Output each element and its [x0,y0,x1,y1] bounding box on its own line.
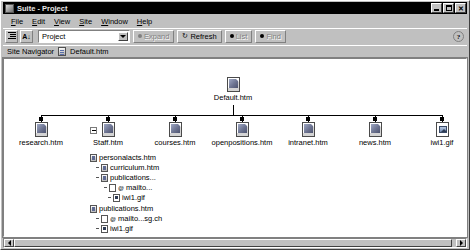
tree-node-label: iwi1.gif [409,138,467,147]
tree-node-courses[interactable]: courses.htm [142,122,208,147]
scroll-right-button[interactable] [456,239,466,247]
current-document-label[interactable]: Default.htm [70,47,108,56]
tree-node-staff[interactable]: Staff.htm [75,122,141,147]
expand-button[interactable]: Expand [133,30,174,43]
horizontal-scrollbar[interactable] [3,238,467,248]
site-map-canvas[interactable]: Default.htm research.htm S [3,58,467,237]
question-mark-icon: ? [457,33,461,41]
tree-node-iwi1gif[interactable]: iwi1.gif [409,122,467,147]
menu-edit[interactable]: Edit [28,16,50,27]
scrollbar-track[interactable] [14,239,456,247]
html-page-icon [227,77,240,92]
minus-icon [92,130,96,131]
html-page-icon [369,122,382,137]
node-connector-plug [306,117,310,121]
menu-view[interactable]: View [50,16,75,27]
tree-node-openpositions[interactable]: openpositions.htm [209,122,275,147]
html-page-icon [101,164,108,172]
sort-button[interactable]: A↓ [20,30,33,43]
html-page-icon [101,174,108,182]
minimize-icon [434,9,439,11]
list-icon [230,34,234,38]
node-connector-plug [39,117,43,121]
menu-site[interactable]: Site [75,16,97,27]
minimize-button[interactable] [431,3,442,13]
arrow-right-icon [460,240,463,246]
outline-row[interactable]: @ mailto...sg.ch [96,214,162,223]
tree-node-label: intranet.htm [275,138,341,147]
help-button[interactable]: ? [453,31,464,42]
tree-node-label: research.htm [8,138,74,147]
node-connector-plug [440,117,444,121]
window-title: Suite - Project [17,4,67,13]
html-page-icon [90,205,97,213]
tree-node-research[interactable]: research.htm [8,122,74,147]
html-page-icon [236,122,249,137]
scroll-left-button[interactable] [4,239,14,247]
html-page-icon [90,154,97,162]
tree-node-label: Staff.htm [75,138,141,147]
outline-row[interactable]: iwi1.gif [96,224,133,233]
title-bar[interactable]: Suite - Project ✕ [3,2,467,14]
outline-row[interactable]: iwi1.gif [108,193,145,202]
tree-node-intranet[interactable]: intranet.htm [275,122,341,147]
outline-row-label: personalacts.htm [99,153,156,162]
chevron-down-icon[interactable] [118,32,128,41]
image-file-icon [436,122,449,137]
tree-branch-icon [96,177,99,178]
tree-node-label: news.htm [342,138,408,147]
list-button[interactable]: List [225,30,253,43]
menu-help[interactable]: Help [133,16,157,27]
arrow-left-icon [8,240,11,246]
mail-link-icon [109,184,116,192]
project-combo[interactable]: Project [38,30,130,43]
refresh-label: Refresh [190,32,216,41]
project-combo-value: Project [39,32,65,41]
tree-branch-icon [96,228,99,229]
app-icon [5,4,14,13]
outline-view-icon [8,32,16,40]
toolbar: A↓ Project Expand ↻ Refresh List Find ? [3,28,467,43]
application-window: Suite - Project ✕ File Edit View Site Wi… [0,0,470,250]
outline-row[interactable]: curriculum.htm [96,163,159,172]
sort-az-icon: A↓ [22,33,31,40]
html-page-icon [35,122,48,137]
find-label: Find [266,32,281,41]
outline-row-label: publications.htm [99,204,153,213]
at-sign-icon: @ [110,216,116,222]
node-connector-plug [240,117,244,121]
tree-node-label: courses.htm [142,138,208,147]
find-button[interactable]: Find [255,30,286,43]
menu-window[interactable]: Window [97,16,133,27]
outline-row-label: iwi1.gif [110,224,133,233]
tree-canvas: Default.htm research.htm S [4,59,466,236]
outline-row[interactable]: personalacts.htm [90,153,156,162]
collapse-staff-button[interactable] [90,127,97,134]
html-page-icon [302,122,315,137]
outline-row-label: curriculum.htm [110,163,159,172]
outline-view-button[interactable] [5,30,18,43]
tree-node-news[interactable]: news.htm [342,122,408,147]
tree-branch-icon [104,187,107,188]
site-navigator-bar: Site Navigator Default.htm [3,45,467,57]
scrollbar-thumb[interactable] [14,239,452,247]
outline-row-label: mailto... [126,183,152,192]
window-controls: ✕ [431,3,466,13]
refresh-button[interactable]: ↻ Refresh [177,30,221,43]
tree-node-root[interactable]: Default.htm [200,77,266,102]
node-connector-plug [373,117,377,121]
maximize-button[interactable] [443,3,454,13]
connector-stem [233,105,234,115]
node-connector-plug [173,117,177,121]
expand-icon [138,34,142,38]
outline-row-label: publications... [110,173,156,182]
menu-file[interactable]: File [7,16,28,27]
menu-bar: File Edit View Site Window Help [3,15,467,27]
document-icon [58,47,66,56]
outline-row[interactable]: publications... [96,173,156,182]
close-button[interactable]: ✕ [455,3,466,13]
image-file-icon [101,225,108,233]
outline-row[interactable]: @ mailto... [104,183,152,192]
outline-row[interactable]: publications.htm [90,204,153,213]
find-icon [260,34,264,38]
